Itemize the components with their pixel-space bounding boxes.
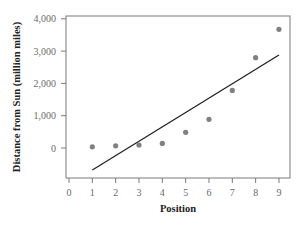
data-points (90, 27, 282, 150)
y-axis: 01,0002,0003,0004,000 (34, 13, 67, 153)
x-tick-label: 1 (90, 187, 95, 198)
x-tick-label: 8 (253, 187, 258, 198)
x-axis-title: Position (160, 203, 196, 214)
plot-frame (66, 16, 290, 178)
y-tick-label: 1,000 (34, 110, 57, 121)
data-point (276, 27, 281, 32)
regression-line (92, 55, 279, 170)
x-tick-label: 2 (113, 187, 118, 198)
scatter-chart: 01,0002,0003,0004,000 0123456789 Positio… (0, 0, 303, 225)
x-tick-label: 7 (230, 187, 235, 198)
x-tick-label: 9 (276, 187, 281, 198)
data-point (160, 141, 165, 146)
data-point (206, 117, 211, 122)
x-tick-label: 0 (67, 187, 72, 198)
x-tick-label: 6 (206, 187, 211, 198)
y-tick-label: 0 (51, 143, 56, 154)
data-point (90, 144, 95, 149)
data-point (230, 88, 235, 93)
data-point (136, 142, 141, 147)
data-point (113, 143, 118, 148)
y-tick-label: 3,000 (34, 46, 57, 57)
trend-line (92, 55, 279, 170)
y-axis-title: Distance from Sun (million miles) (11, 21, 23, 172)
y-tick-label: 4,000 (34, 13, 57, 24)
x-tick-label: 4 (160, 187, 165, 198)
data-point (253, 55, 258, 60)
x-tick-label: 3 (136, 187, 141, 198)
x-tick-label: 5 (183, 187, 188, 198)
y-tick-label: 2,000 (34, 78, 57, 89)
data-point (183, 130, 188, 135)
x-axis: 0123456789 (67, 178, 282, 198)
